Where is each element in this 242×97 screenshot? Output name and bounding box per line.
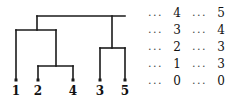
leaf-marker-4	[72, 79, 75, 82]
figure-container: 12435 ...4...5...3...4...2...3...1...3..…	[0, 0, 242, 97]
table-row: ...1...3	[148, 55, 242, 72]
ellipsis-right: ...	[192, 40, 214, 53]
ellipsis-right: ...	[192, 6, 214, 19]
leaf-label-3: 3	[93, 85, 107, 97]
ellipsis-left: ...	[148, 74, 170, 87]
ellipsis-right: ...	[192, 57, 214, 70]
table-value-right: 0	[214, 74, 228, 88]
table-value-left: 3	[170, 23, 184, 37]
ellipsis-left: ...	[148, 40, 170, 53]
table-value-right: 3	[214, 57, 228, 71]
table-value-left: 4	[170, 6, 184, 20]
table-value-left: 2	[170, 40, 184, 54]
ellipsis-left: ...	[148, 6, 170, 19]
leaf-label-4: 4	[66, 85, 80, 97]
leaf-marker-3	[99, 79, 102, 82]
table-row: ...0...0	[148, 72, 242, 89]
table-value-right: 5	[214, 6, 228, 20]
ellipsis-left: ...	[148, 57, 170, 70]
ellipsis-right: ...	[192, 23, 214, 36]
table-value-left: 1	[170, 57, 184, 71]
leaf-label-1: 1	[9, 85, 23, 97]
dendrogram-diagram	[0, 0, 140, 97]
table-value-right: 4	[214, 23, 228, 37]
leaf-marker-2	[37, 79, 40, 82]
table-value-left: 0	[170, 74, 184, 88]
table-row: ...2...3	[148, 38, 242, 55]
table-value-right: 3	[214, 40, 228, 54]
table-row: ...3...4	[148, 21, 242, 38]
leaf-label-2: 2	[31, 85, 45, 97]
table-row: ...4...5	[148, 4, 242, 21]
number-table: ...4...5...3...4...2...3...1...3...0...0	[148, 0, 242, 97]
ellipsis-right: ...	[192, 74, 214, 87]
leaf-marker-1	[15, 79, 18, 82]
ellipsis-left: ...	[148, 23, 170, 36]
leaf-label-5: 5	[118, 85, 132, 97]
leaf-marker-5	[124, 79, 127, 82]
